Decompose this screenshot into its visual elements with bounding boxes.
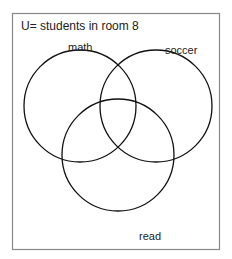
universe-label: U= students in room 8 [21,19,139,33]
read-label: read [139,230,161,242]
venn-diagram [0,0,232,259]
math-label: math [68,41,92,53]
soccer-label: soccer [165,44,197,56]
